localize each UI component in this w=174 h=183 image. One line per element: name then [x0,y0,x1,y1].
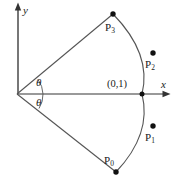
point-label-P2: P2 [145,59,155,70]
point-dot-P0 [113,169,118,174]
point-label-P0-sub: 0 [110,159,114,168]
ray-upper [17,14,113,94]
x-axis-label: x [161,79,166,90]
sector-rays [17,14,116,172]
point-label-P1: P1 [145,132,155,143]
point-label-P2-sub: 2 [151,63,155,72]
theta-lower-label: θ [36,97,41,108]
point-label-P3-sub: 3 [111,26,115,35]
figure-canvas [0,0,174,183]
y-axis [15,3,21,95]
unit-point-label: (0,1) [107,79,127,90]
point-dot-P1 [150,123,155,128]
point-label-P0: P0 [104,155,114,166]
y-axis-arrowhead-icon [15,3,21,11]
point-dot-P3 [110,11,115,16]
unit-point-dot [140,92,145,97]
point-label-P3: P3 [105,22,115,33]
point-dot-P2 [150,50,155,55]
sector-arc [113,14,144,172]
theta-upper-label: θ [36,77,41,88]
x-axis-arrowhead-icon [163,91,171,97]
geometry-figure: y x θ θ (0,1) P0 P1 P2 P3 [0,0,174,183]
point-label-P1-sub: 1 [151,136,155,145]
ray-lower [17,94,116,172]
y-axis-label: y [23,5,28,16]
